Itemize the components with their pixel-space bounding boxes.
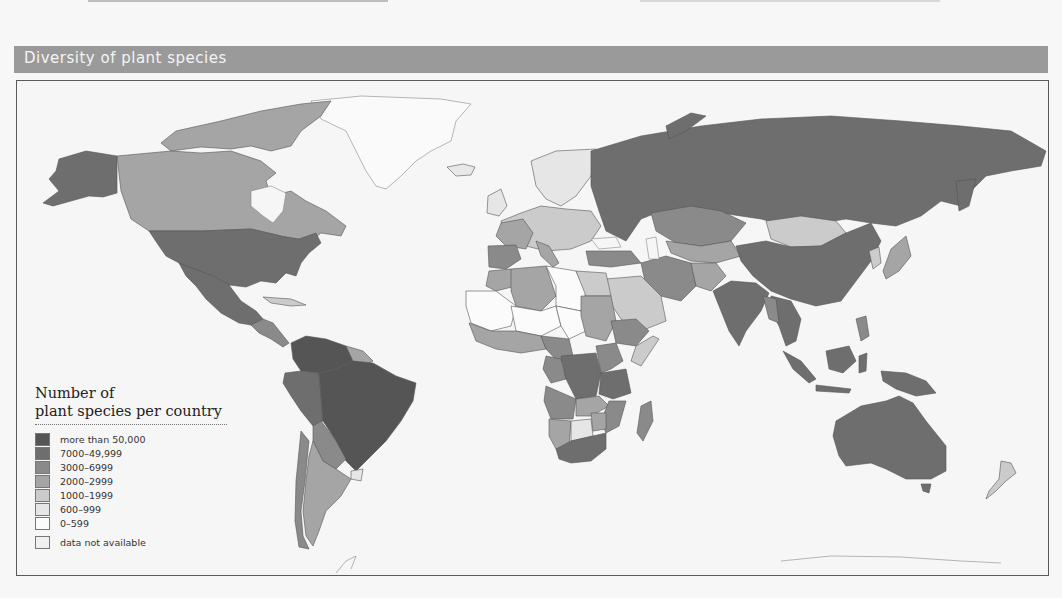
- legend-label: 600–999: [60, 504, 101, 515]
- region-peru: [283, 371, 323, 426]
- region-canada-islands: [161, 101, 331, 151]
- page-top-rule-left: [88, 0, 388, 2]
- page-top-rule-right: [640, 0, 940, 2]
- region-sulawesi: [859, 353, 867, 373]
- region-india: [713, 281, 769, 346]
- region-philippines: [856, 316, 869, 341]
- region-scandinavia: [531, 149, 596, 206]
- region-borneo: [826, 346, 856, 373]
- region-central-america: [251, 319, 289, 347]
- legend-swatch: [35, 536, 50, 549]
- legend-item: 3000–6999: [35, 460, 235, 474]
- region-australia: [833, 396, 946, 479]
- legend-label: more than 50,000: [60, 434, 145, 445]
- region-spain: [488, 245, 521, 269]
- legend: Number of plant species per country more…: [35, 384, 235, 549]
- legend-title-line1: Number of: [35, 384, 235, 402]
- region-madagascar: [637, 401, 653, 441]
- region-new-zealand: [986, 461, 1016, 499]
- region-dr-congo: [561, 353, 601, 399]
- legend-item-na: data not available: [35, 535, 235, 549]
- legend-label: 2000–2999: [60, 476, 113, 487]
- legend-title-line2: plant species per country: [35, 402, 235, 420]
- region-turkey: [586, 251, 641, 267]
- region-greenland: [311, 96, 471, 189]
- region-caribbean: [263, 297, 306, 306]
- legend-swatch: [35, 517, 50, 530]
- region-uk: [487, 189, 507, 216]
- legend-label: data not available: [60, 537, 146, 548]
- region-sudan: [581, 296, 616, 341]
- legend-item: 600–999: [35, 502, 235, 516]
- region-kamchatka: [956, 179, 976, 211]
- region-angola: [544, 386, 576, 419]
- region-new-guinea: [881, 371, 936, 396]
- region-zimbabwe: [591, 413, 606, 431]
- legend-item: more than 50,000: [35, 432, 235, 446]
- legend-swatch: [35, 447, 50, 460]
- region-east-africa: [596, 343, 623, 373]
- region-uruguay: [351, 469, 363, 481]
- region-sumatra: [783, 351, 816, 383]
- legend-item: 7000–49,999: [35, 446, 235, 460]
- legend-swatch: [35, 503, 50, 516]
- region-black-sea: [591, 237, 621, 249]
- legend-label: 1000–1999: [60, 490, 113, 501]
- region-tanzania: [599, 369, 631, 399]
- region-caspian: [646, 237, 659, 259]
- legend-label: 7000–49,999: [60, 448, 122, 459]
- legend-swatch: [35, 461, 50, 474]
- map-frame: Number of plant species per country more…: [16, 80, 1049, 576]
- region-antarctica: [781, 556, 1001, 563]
- legend-item: 1000–1999: [35, 488, 235, 502]
- map-title: Diversity of plant species: [24, 49, 227, 67]
- region-tasmania: [921, 484, 931, 493]
- region-korea: [869, 247, 881, 269]
- title-bar: Diversity of plant species: [14, 46, 1048, 73]
- legend-label: 0–599: [60, 518, 89, 529]
- region-antarctic-peninsula: [336, 556, 356, 573]
- legend-item: 2000–2999: [35, 474, 235, 488]
- legend-swatch: [35, 475, 50, 488]
- region-japan: [883, 236, 911, 279]
- legend-item: 0–599: [35, 516, 235, 530]
- legend-swatch: [35, 489, 50, 502]
- legend-label: 3000–6999: [60, 462, 113, 473]
- legend-swatch: [35, 433, 50, 446]
- legend-divider: [35, 424, 227, 425]
- region-java: [816, 385, 851, 393]
- region-iceland: [447, 164, 475, 176]
- region-alaska: [43, 151, 117, 206]
